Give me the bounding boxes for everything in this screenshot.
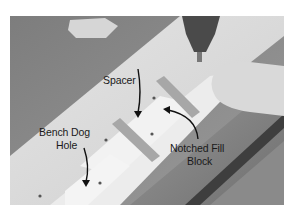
workbench-photo [10, 16, 284, 205]
photo-scene [10, 16, 284, 205]
spacer-label: Spacer [103, 74, 136, 86]
notched-fill-block-label-line2: Block [187, 155, 212, 167]
bench-dog-hole-label-line2: Hole [56, 139, 77, 151]
notched-fill-block-label-line1: Notched Fill [170, 142, 224, 154]
bench-dog-hole-label-line1: Bench Dog [39, 126, 90, 138]
